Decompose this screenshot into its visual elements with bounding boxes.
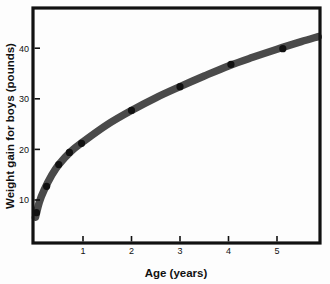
data-point [227, 61, 234, 68]
data-point [55, 161, 62, 168]
data-point [78, 140, 85, 147]
y-tick-label: 30 [19, 94, 29, 104]
data-point [128, 107, 135, 114]
y-axis-title: Weight gain for boys (pounds) [4, 43, 16, 209]
y-tick-label: 20 [19, 145, 29, 155]
x-tick-label: 1 [80, 246, 85, 256]
plot-background [0, 0, 330, 284]
data-point [176, 83, 183, 90]
x-tick-label: 4 [226, 246, 231, 256]
data-point [279, 45, 286, 52]
x-axis-title: Age (years) [145, 267, 208, 279]
x-tick-label: 5 [274, 246, 279, 256]
data-point [43, 183, 50, 190]
chart-figure: 12345 10203040 Age (years) Weight gain f… [0, 0, 330, 284]
x-tick-label: 3 [177, 246, 182, 256]
y-tick-label: 10 [19, 195, 29, 205]
data-point [66, 149, 73, 156]
y-tick-label: 40 [19, 44, 29, 54]
x-tick-label: 2 [129, 246, 134, 256]
chart-plot: 12345 10203040 Age (years) Weight gain f… [0, 0, 330, 284]
